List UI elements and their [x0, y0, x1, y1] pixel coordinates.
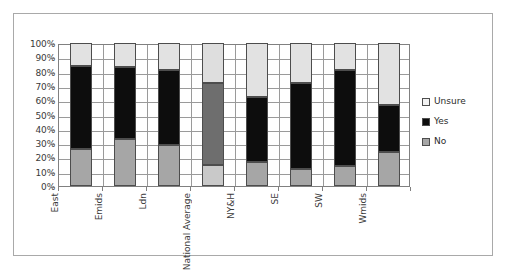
- stacked-bar[interactable]: [70, 45, 92, 186]
- x-axis: EastEmidsLdnNational AverageNY&HSESWWmid…: [58, 187, 410, 247]
- bar-segment-yes[interactable]: [158, 70, 180, 144]
- bar-segment-unsure[interactable]: [334, 43, 356, 70]
- chart-frame: 100%90%80%70%60%50%40%30%20%10%0% EastEm…: [13, 13, 493, 256]
- bar-segment-unsure[interactable]: [70, 43, 92, 66]
- y-axis-tick-label: 50%: [15, 112, 55, 121]
- bar-segment-unsure[interactable]: [114, 43, 136, 67]
- legend-item[interactable]: No: [422, 136, 492, 147]
- bar-slot: [279, 45, 323, 186]
- y-axis-tick-label: 0%: [15, 183, 55, 192]
- y-axis-tick-label: 100%: [15, 40, 55, 49]
- chart-legend: UnsureYesNo: [422, 96, 492, 156]
- y-axis-tick-mark: [51, 158, 55, 159]
- stacked-bar[interactable]: [202, 45, 224, 186]
- x-axis-tick-mark: [102, 187, 103, 191]
- bar-segment-no[interactable]: [334, 166, 356, 186]
- bar-segment-no[interactable]: [378, 152, 400, 186]
- x-axis-tick-mark: [146, 187, 147, 191]
- bar-slot: [235, 45, 279, 186]
- bar-segment-unsure[interactable]: [158, 43, 180, 70]
- bar-segment-unsure[interactable]: [202, 43, 224, 83]
- legend-swatch-icon: [422, 118, 430, 126]
- bar-segment-yes[interactable]: [378, 105, 400, 152]
- legend-label: Yes: [434, 117, 449, 126]
- legend-swatch-icon: [422, 98, 430, 106]
- bar-segment-yes[interactable]: [70, 66, 92, 149]
- legend-item[interactable]: Yes: [422, 116, 492, 127]
- bar-segment-unsure[interactable]: [246, 43, 268, 97]
- legend-item[interactable]: Unsure: [422, 96, 492, 107]
- y-axis-tick-label: 80%: [15, 69, 55, 78]
- bar-slot: [103, 45, 147, 186]
- bar-segment-yes[interactable]: [114, 67, 136, 139]
- stacked-bar[interactable]: [290, 45, 312, 186]
- y-axis-tick-label: 30%: [15, 140, 55, 149]
- x-axis-tick-mark: [190, 187, 191, 191]
- y-axis-tick-label: 20%: [15, 154, 55, 163]
- x-axis-tick-mark: [58, 187, 59, 191]
- bar-slot: [367, 45, 411, 186]
- bar-slot: [191, 45, 235, 186]
- y-axis-tick-label: 70%: [15, 83, 55, 92]
- y-axis: 100%90%80%70%60%50%40%30%20%10%0%: [14, 44, 55, 187]
- y-axis-tick-mark: [51, 58, 55, 59]
- bar-segment-yes[interactable]: [334, 70, 356, 166]
- stacked-bar[interactable]: [378, 45, 400, 186]
- bar-segment-yes[interactable]: [290, 83, 312, 169]
- bar-segment-no[interactable]: [246, 162, 268, 186]
- bar-segment-yes[interactable]: [202, 83, 224, 165]
- bar-slot: [147, 45, 191, 186]
- y-axis-tick-mark: [51, 44, 55, 45]
- y-axis-tick-mark: [51, 116, 55, 117]
- bar-segment-no[interactable]: [114, 139, 136, 186]
- bar-segment-no[interactable]: [158, 145, 180, 186]
- y-axis-tick-label: 60%: [15, 97, 55, 106]
- stacked-bar[interactable]: [334, 45, 356, 186]
- y-axis-tick-mark: [51, 187, 55, 188]
- x-axis-tick-mark: [410, 187, 411, 191]
- x-axis-tick-mark: [366, 187, 367, 191]
- x-axis-tick-label: Wmids: [358, 193, 418, 224]
- stacked-bar[interactable]: [246, 45, 268, 186]
- legend-swatch-icon: [422, 138, 430, 146]
- x-axis-tick-mark: [322, 187, 323, 191]
- plot-area: [58, 44, 410, 187]
- bar-segment-unsure[interactable]: [378, 43, 400, 104]
- stacked-bar[interactable]: [158, 45, 180, 186]
- legend-label: No: [434, 137, 446, 146]
- bar-slot: [323, 45, 367, 186]
- y-axis-tick-mark: [51, 73, 55, 74]
- y-axis-tick-label: 40%: [15, 126, 55, 135]
- legend-label: Unsure: [434, 97, 466, 106]
- bar-segment-no[interactable]: [202, 165, 224, 186]
- plot-wrapper: [58, 44, 410, 187]
- y-axis-tick-label: 10%: [15, 169, 55, 178]
- y-axis-tick-mark: [51, 87, 55, 88]
- bar-segment-yes[interactable]: [246, 97, 268, 161]
- bar-segment-unsure[interactable]: [290, 43, 312, 83]
- stacked-bar[interactable]: [114, 45, 136, 186]
- y-axis-tick-mark: [51, 144, 55, 145]
- x-axis-tick-mark: [234, 187, 235, 191]
- y-axis-tick-mark: [51, 101, 55, 102]
- x-axis-tick-mark: [278, 187, 279, 191]
- bar-segment-no[interactable]: [70, 149, 92, 186]
- y-axis-tick-label: 90%: [15, 54, 55, 63]
- bar-segment-no[interactable]: [290, 169, 312, 186]
- bar-slot: [59, 45, 103, 186]
- y-axis-tick-mark: [51, 130, 55, 131]
- y-axis-tick-mark: [51, 173, 55, 174]
